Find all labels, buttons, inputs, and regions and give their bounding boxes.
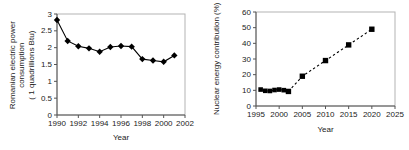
series-line-consumption xyxy=(57,20,174,62)
y-tick-label: 50 xyxy=(242,23,251,32)
data-point-marker xyxy=(300,74,305,79)
data-point-marker xyxy=(346,42,351,47)
x-tick-label: 1995 xyxy=(247,110,265,119)
data-point-marker xyxy=(107,44,113,50)
y-tick-label: 1.5 xyxy=(41,60,53,69)
left-chart-x-axis-title: Year xyxy=(57,133,185,142)
left-chart-plot: 00.511.522.53199019921994199619982000200… xyxy=(0,0,204,150)
data-point-marker xyxy=(263,89,268,94)
nuclear-contribution-chart: Nuclear energy contribution (%) 01020304… xyxy=(204,0,409,150)
data-point-marker xyxy=(286,89,291,94)
y-tick-label: 20 xyxy=(242,70,251,79)
data-point-marker xyxy=(64,38,70,44)
data-point-marker xyxy=(86,45,92,51)
x-tick-label: 1998 xyxy=(133,119,151,128)
data-point-marker xyxy=(282,88,287,93)
x-tick-label: 2000 xyxy=(270,110,288,119)
series-line-projected xyxy=(288,29,371,91)
y-tick-label: 3 xyxy=(48,10,53,19)
x-tick-label: 2000 xyxy=(155,119,173,128)
x-tick-label: 1992 xyxy=(69,119,87,128)
plot-frame xyxy=(57,14,185,115)
y-tick-label: 0.5 xyxy=(41,94,53,103)
data-point-marker xyxy=(171,52,177,58)
data-point-marker xyxy=(160,59,166,65)
data-point-marker xyxy=(277,87,282,92)
x-tick-label: 2010 xyxy=(317,110,335,119)
x-tick-label: 2015 xyxy=(340,110,358,119)
x-tick-label: 2005 xyxy=(293,110,311,119)
y-tick-label: 30 xyxy=(242,55,251,64)
y-tick-label: 2.5 xyxy=(41,26,53,35)
data-point-marker xyxy=(323,58,328,63)
data-point-marker xyxy=(118,43,124,49)
data-point-marker xyxy=(54,17,60,23)
romanian-consumption-chart: Romanian electric power consumption ( 1 … xyxy=(0,0,204,150)
x-tick-label: 1994 xyxy=(91,119,109,128)
data-point-marker xyxy=(96,49,102,55)
data-point-marker xyxy=(268,89,273,94)
x-tick-label: 2020 xyxy=(363,110,381,119)
y-tick-label: 1 xyxy=(48,77,53,86)
two-panel-figure: Romanian electric power consumption ( 1 … xyxy=(0,0,409,150)
y-tick-label: 60 xyxy=(242,8,251,17)
data-point-marker xyxy=(369,27,374,32)
x-tick-label: 2002 xyxy=(176,119,194,128)
y-tick-label: 10 xyxy=(242,86,251,95)
x-tick-label: 1990 xyxy=(48,119,66,128)
data-point-marker xyxy=(75,43,81,49)
right-chart-x-axis-title: Year xyxy=(256,125,395,134)
data-point-marker xyxy=(272,88,277,93)
data-point-marker xyxy=(258,87,263,92)
x-tick-label: 2025 xyxy=(386,110,404,119)
data-point-marker xyxy=(150,57,156,63)
y-tick-label: 40 xyxy=(242,39,251,48)
x-tick-label: 1996 xyxy=(112,119,130,128)
y-tick-label: 2 xyxy=(48,43,53,52)
